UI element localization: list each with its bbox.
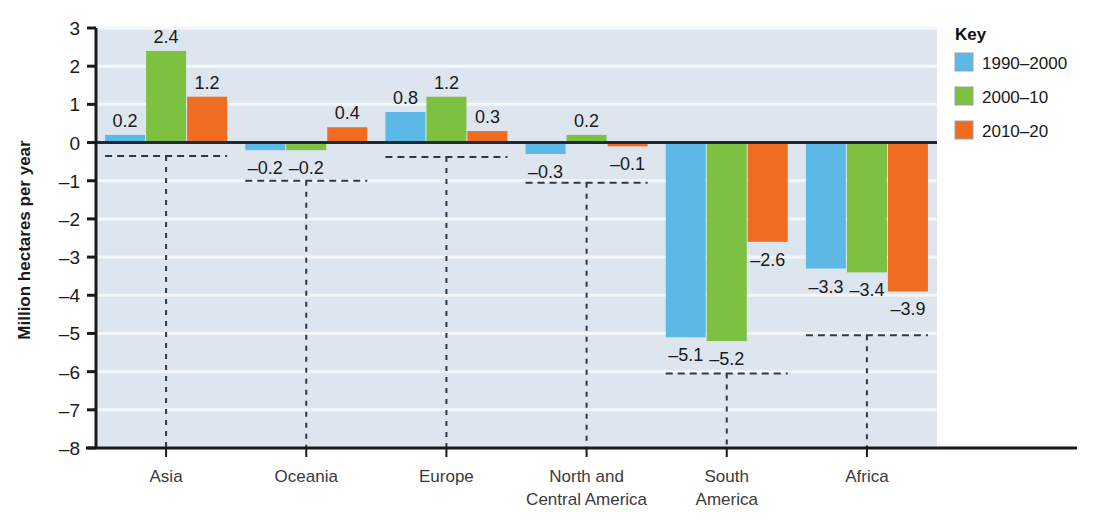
- bar: [467, 131, 507, 142]
- bar: [707, 143, 747, 342]
- y-axis-title-text: Million hectares per year: [15, 140, 34, 340]
- x-axis-category-label: America: [696, 490, 759, 509]
- legend-swatch: [955, 53, 973, 71]
- bar: [146, 51, 186, 143]
- bar-value-label: –3.3: [808, 277, 843, 297]
- bar-value-label: –0.2: [248, 158, 283, 178]
- bar-value-label: –0.2: [289, 158, 324, 178]
- y-axis-title: Million hectares per year: [15, 140, 34, 340]
- x-axis-category-label: Europe: [419, 467, 474, 486]
- bar-value-label: –3.9: [890, 299, 925, 319]
- legend-entry-label: 2000–10: [982, 88, 1048, 107]
- x-axis-category-label: South: [705, 467, 749, 486]
- bar-value-label: 2.4: [154, 27, 179, 47]
- figure-container: 3210–1–2–3–4–5–6–7–8 0.22.41.2–0.2–0.20.…: [0, 0, 1094, 532]
- bar-value-label: –0.3: [528, 162, 563, 182]
- bar: [327, 127, 367, 142]
- y-tick-label: 1: [69, 94, 80, 115]
- bar: [526, 143, 566, 154]
- bar: [385, 112, 425, 143]
- y-tick-label: 2: [69, 56, 80, 77]
- bar: [666, 143, 706, 338]
- bar: [806, 143, 846, 269]
- legend-swatch: [955, 87, 973, 105]
- bar-value-label: 0.2: [574, 111, 599, 131]
- bar-value-label: 0.3: [475, 107, 500, 127]
- legend-entry-label: 2010–20: [982, 122, 1048, 141]
- x-axis-category-label: Africa: [845, 467, 889, 486]
- y-tick-label: –4: [59, 285, 81, 306]
- bar-value-label: –5.2: [709, 349, 744, 369]
- bar-value-label: 1.2: [434, 73, 459, 93]
- bar: [748, 143, 788, 242]
- bar: [426, 97, 466, 143]
- x-axis-category-label: Asia: [150, 467, 184, 486]
- y-tick-label: –8: [59, 438, 80, 459]
- y-tick-label: –3: [59, 247, 80, 268]
- bar-value-label: 0.2: [113, 111, 138, 131]
- x-axis-category-label: Central America: [526, 490, 647, 509]
- y-tick-label: –5: [59, 323, 80, 344]
- bar-value-label: 0.4: [335, 103, 360, 123]
- y-tick-label: 3: [69, 18, 80, 39]
- bar: [847, 143, 887, 273]
- legend-title: Key: [955, 25, 987, 44]
- legend-entry-label: 1990–2000: [982, 54, 1067, 73]
- legend: Key1990–20002000–102010–20: [955, 25, 1067, 141]
- y-tick-label: –7: [59, 400, 80, 421]
- y-tick-label: 0: [69, 133, 80, 154]
- x-axis-category-label: North and: [549, 467, 624, 486]
- bar-value-label: –0.1: [610, 154, 645, 174]
- x-axis-category-label: Oceania: [275, 467, 339, 486]
- bar-chart: 3210–1–2–3–4–5–6–7–8 0.22.41.2–0.2–0.20.…: [0, 0, 1094, 532]
- bar-value-label: 0.8: [393, 88, 418, 108]
- y-axis-ticks: 3210–1–2–3–4–5–6–7–8: [59, 18, 96, 459]
- bar: [187, 97, 227, 143]
- bar-value-label: –5.1: [668, 345, 703, 365]
- y-tick-label: –6: [59, 362, 80, 383]
- category-labels: AsiaOceaniaEuropeNorth andCentral Americ…: [150, 467, 890, 509]
- bar-value-label: –3.4: [849, 280, 884, 300]
- bar: [888, 143, 928, 292]
- bar-value-label: –2.6: [750, 250, 785, 270]
- y-tick-label: –2: [59, 209, 80, 230]
- y-tick-label: –1: [59, 171, 80, 192]
- legend-swatch: [955, 121, 973, 139]
- bar-value-label: 1.2: [195, 73, 220, 93]
